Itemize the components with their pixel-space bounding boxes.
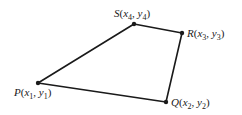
quadrilateral-diagram: S(x4, y4) R(x3, y3) P(x1, y1) Q(x2, y2) bbox=[0, 0, 242, 115]
vertex-r-dot bbox=[180, 31, 184, 35]
vertex-r-label: R(x3, y3) bbox=[186, 27, 225, 42]
vertex-q-label: Q(x2, y2) bbox=[171, 96, 210, 111]
vertex-s-label: S(x4, y4) bbox=[114, 7, 150, 22]
vertex-p-label: P(x1, y1) bbox=[13, 86, 52, 101]
vertex-q-dot bbox=[164, 100, 168, 104]
vertex-p-dot bbox=[36, 81, 40, 85]
quadrilateral-edges bbox=[38, 24, 182, 102]
vertex-s-dot bbox=[132, 22, 136, 26]
